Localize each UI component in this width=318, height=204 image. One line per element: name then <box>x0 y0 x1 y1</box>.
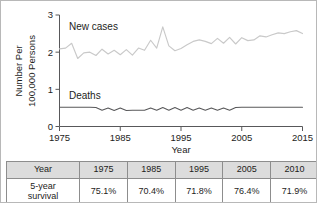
x-tick-label-1975: 1975 <box>49 132 70 143</box>
table-row-label-line2: survival <box>28 191 59 201</box>
y-tick-label-1: 1 <box>48 84 53 95</box>
y-axis-title-line2: 100,000 Persons <box>26 35 37 107</box>
x-axis-ticks <box>60 127 303 132</box>
table-row-label-line1: 5-year <box>30 181 56 191</box>
y-tick-label-3: 3 <box>48 9 53 20</box>
table-cell-survival-1975: 75.1% <box>80 179 128 204</box>
series-line-deaths <box>60 107 303 110</box>
table-header-cell-1995: 1995 <box>175 162 223 179</box>
table-row: 5-year survival 75.1% 70.4% 71.8% 76.4% … <box>7 179 318 204</box>
table-cell-survival-2010: 71.9% <box>271 179 317 204</box>
table-header-cell-1985: 1985 <box>127 162 175 179</box>
table-header-cell-year: Year <box>7 162 80 179</box>
table-cell-survival-2005: 76.4% <box>223 179 271 204</box>
table-row-label: 5-year survival <box>7 179 80 204</box>
table-header-cell-2010: 2010 <box>271 162 317 179</box>
table-header-cell-1975: 1975 <box>80 162 128 179</box>
series-label-deaths: Deaths <box>69 90 101 101</box>
x-tick-label-1985: 1985 <box>110 132 131 143</box>
table-header-cell-2005: 2005 <box>223 162 271 179</box>
line-chart: 0123 19751985199520052015 Number Per 100… <box>1 1 317 159</box>
y-axis-title-line1: Number Per <box>13 45 24 96</box>
x-tick-label-2005: 2005 <box>231 132 252 143</box>
figure-container: 0123 19751985199520052015 Number Per 100… <box>0 0 317 203</box>
x-axis-title: Year <box>171 144 190 155</box>
x-axis-tick-labels: 19751985199520052015 <box>49 132 313 143</box>
y-axis-tick-labels: 0123 <box>48 9 53 131</box>
y-tick-label-2: 2 <box>48 47 53 58</box>
survival-data-table: Year 1975 1985 1995 2005 2010 5-year sur… <box>6 161 317 203</box>
table-header-row: Year 1975 1985 1995 2005 2010 <box>7 162 318 179</box>
y-tick-label-0: 0 <box>48 121 53 132</box>
chart-panel: 0123 19751985199520052015 Number Per 100… <box>1 1 317 159</box>
y-axis-ticks <box>56 15 60 127</box>
series-label-new-cases: New cases <box>69 21 118 32</box>
x-tick-label-2015: 2015 <box>292 132 313 143</box>
table-cell-survival-1985: 70.4% <box>127 179 175 204</box>
table-cell-survival-1995: 71.8% <box>175 179 223 204</box>
x-tick-label-1995: 1995 <box>170 132 191 143</box>
